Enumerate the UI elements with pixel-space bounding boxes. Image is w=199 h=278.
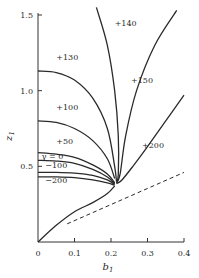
x-tick-label: 0.3	[141, 249, 154, 258]
x-tick-label: 0	[35, 249, 40, 258]
x-axis-label: b1	[103, 261, 114, 274]
curve-140	[96, 7, 118, 183]
y-tick-label: 0.5	[20, 162, 33, 171]
curve-label-130: +130	[56, 53, 78, 62]
curve-label-50: +50	[56, 137, 73, 146]
chart: 00.10.20.30.40.51.01.5b1z1+130+100+50γ =…	[0, 0, 199, 278]
curve-200	[116, 95, 184, 184]
curve-label-0: γ = 0	[42, 152, 64, 161]
x-tick-label: 0.4	[178, 249, 191, 258]
x-tick-label: 0.1	[68, 249, 81, 258]
y-tick-label: 1.0	[20, 87, 33, 96]
curve-dashed-asymptote	[67, 172, 184, 223]
y-tick-label: 1.5	[20, 11, 33, 20]
curve-lower-branch	[38, 186, 115, 242]
chart-plot: 00.10.20.30.40.51.01.5b1z1+130+100+50γ =…	[0, 0, 199, 278]
y-axis-label: z1	[3, 131, 16, 142]
x-tick-label: 0.2	[105, 249, 118, 258]
curve-label-200: +200	[142, 141, 164, 150]
curve-150	[116, 10, 176, 183]
curve-label-100: −100	[45, 161, 67, 170]
curve-label-140: +140	[115, 19, 137, 28]
curve-label-150: +150	[131, 76, 153, 85]
curve-label-100: +100	[56, 103, 78, 112]
curve-label-200: −200	[45, 176, 67, 185]
